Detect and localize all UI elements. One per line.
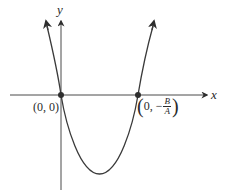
fraction-numerator: B xyxy=(163,97,171,107)
left-paren: ( xyxy=(137,95,144,117)
origin-label: (0, 0) xyxy=(33,100,59,115)
right-paren: ) xyxy=(172,95,179,117)
root-label: (0, −BA) xyxy=(137,96,179,116)
root-label-prefix: 0, − xyxy=(144,99,163,113)
fraction-denominator: A xyxy=(164,107,170,116)
graph-canvas xyxy=(0,0,226,191)
fraction-b-over-a: BA xyxy=(163,97,171,116)
origin-point xyxy=(58,92,64,98)
right-arm-arrow xyxy=(152,21,154,30)
x-axis-label: x xyxy=(211,87,217,103)
y-axis-label: y xyxy=(57,2,63,18)
